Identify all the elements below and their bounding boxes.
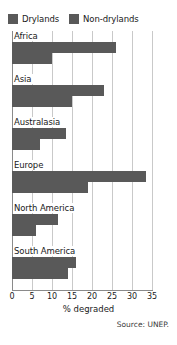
gridline-30 [132,31,133,290]
tick-label: 10 [47,292,57,302]
bar-non-drylands [12,182,88,193]
tick-label: 30 [127,292,137,302]
x-axis-ticks: 0 5 10 15 20 25 30 35 [0,292,177,304]
gridline-25 [112,31,113,290]
tick-label: 35 [147,292,157,302]
bar-group-label: North America [13,203,76,213]
bar-group-label: Asia [13,74,33,84]
bar-group-label: Africa [13,31,40,41]
bar-drylands [12,214,58,225]
bar-non-drylands [12,139,40,150]
bar-non-drylands [12,96,72,107]
degraded-land-bar-chart: Drylands Non-drylands Africa Asia [0,0,177,345]
tick-label: 20 [87,292,97,302]
legend-swatch-icon [8,14,18,24]
legend-entry-drylands: Drylands [8,14,59,24]
bar-drylands [12,42,116,53]
legend-entry-non-drylands: Non-drylands [69,14,139,24]
bar-drylands [12,171,146,182]
source-note: Source: UNEP. [117,320,169,330]
gridline-35 [152,31,153,290]
bar-drylands [12,128,66,139]
bar-non-drylands [12,225,36,236]
x-axis-label: % degraded [0,304,177,315]
legend-label-non-drylands: Non-drylands [83,14,139,24]
x-axis-line [12,290,153,291]
bar-drylands [12,85,104,96]
tick-label: 15 [67,292,77,302]
bar-drylands [12,257,76,268]
tick-label: 25 [107,292,117,302]
legend-label-drylands: Drylands [22,14,59,24]
chart-legend: Drylands Non-drylands [0,11,177,27]
tick-label: 5 [29,292,34,302]
bar-non-drylands [12,53,52,64]
bar-group-label: South America [13,246,77,256]
bar-non-drylands [12,268,68,279]
bar-group-label: Australasia [13,117,62,127]
plot-area: Africa Asia Australasia Europe [12,31,152,290]
legend-swatch-icon [69,14,79,24]
tick-label: 0 [9,292,14,302]
gridline-20 [92,31,93,290]
bar-group-label: Europe [13,160,45,170]
